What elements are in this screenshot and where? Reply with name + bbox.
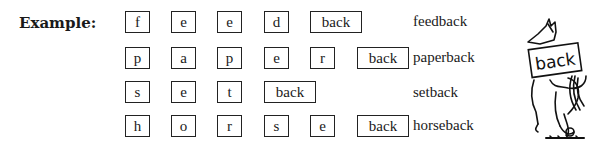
- letter-box: e: [171, 11, 196, 33]
- letter-box: r: [310, 47, 335, 69]
- result-word: paperback: [413, 49, 475, 66]
- letter-box: e: [264, 47, 289, 69]
- result-word: setback: [413, 84, 458, 101]
- result-word: feedback: [413, 13, 467, 30]
- suffix-box: back: [264, 81, 316, 103]
- letter-box: d: [264, 11, 289, 33]
- letter-box: p: [217, 47, 242, 69]
- letter-box: e: [217, 11, 242, 33]
- result-word: horseback: [413, 117, 474, 134]
- letter-box: e: [171, 81, 196, 103]
- horse-illustration: back: [520, 14, 600, 144]
- example-label: Example:: [19, 14, 96, 32]
- suffix-box: back: [357, 47, 409, 69]
- letter-box: r: [217, 115, 242, 137]
- letter-box: h: [125, 115, 150, 137]
- letter-box: f: [125, 11, 150, 33]
- letter-box: s: [264, 115, 289, 137]
- horse-icon: back: [520, 14, 600, 144]
- letter-box: a: [171, 47, 196, 69]
- letter-box: p: [125, 47, 150, 69]
- letter-box: o: [171, 115, 196, 137]
- letter-box: e: [310, 115, 335, 137]
- letter-box: t: [217, 81, 242, 103]
- letter-box: s: [125, 81, 150, 103]
- suffix-box: back: [310, 11, 362, 33]
- suffix-box: back: [357, 115, 409, 137]
